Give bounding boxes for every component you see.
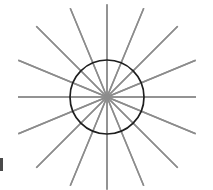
left-edge-mark [0, 158, 3, 171]
radial-diagram-svg [0, 0, 213, 190]
figure-canvas [0, 0, 213, 190]
